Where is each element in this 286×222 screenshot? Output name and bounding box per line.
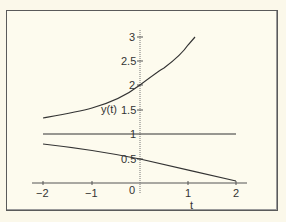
plot-area: −2 −1 0 1 2 t 3 2.5 2 1.5 1 0.5 y(t) bbox=[0, 0, 286, 222]
x-tick-label: −1 bbox=[85, 187, 98, 199]
y-tick-label: 2 bbox=[129, 79, 135, 91]
origin-label: 0 bbox=[129, 184, 135, 196]
y-tick-label: 2.5 bbox=[121, 55, 136, 67]
x-axis-label: t bbox=[190, 199, 193, 211]
y-axis-label: y(t) bbox=[101, 103, 117, 115]
y-tick-label: 3 bbox=[129, 31, 135, 43]
y-tick-label: 0.5 bbox=[121, 153, 136, 165]
y-tick-label: 1 bbox=[130, 128, 136, 140]
x-tick-label: 2 bbox=[233, 187, 239, 199]
y-tick-label: 1.5 bbox=[121, 104, 136, 116]
upper-solution-curve bbox=[43, 37, 195, 118]
x-tick-label: 1 bbox=[185, 187, 191, 199]
x-tick-label: −2 bbox=[36, 187, 49, 199]
